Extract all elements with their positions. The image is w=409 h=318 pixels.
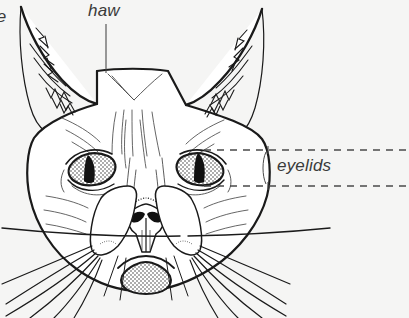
cat-head-illustration [0, 0, 409, 318]
cat-face-diagram: re haw eyelids [0, 0, 409, 318]
label-partial-left: re [0, 7, 7, 27]
label-haw: haw [88, 1, 120, 21]
label-eyelids: eyelids [277, 156, 331, 176]
chin [118, 256, 174, 294]
